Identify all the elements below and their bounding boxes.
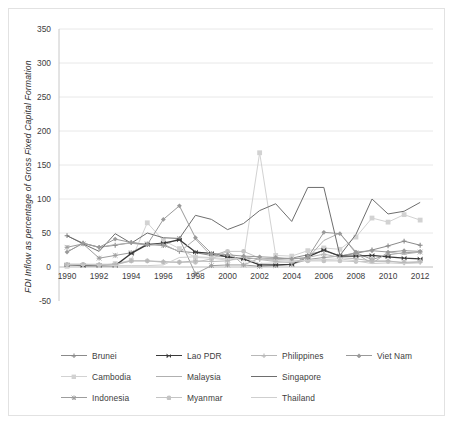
marker-circle xyxy=(241,249,246,254)
legend-item-indonesia[interactable]: Indonesia xyxy=(61,393,156,403)
x-axis-tick-2006: 2006 xyxy=(309,271,339,281)
marker-diamond xyxy=(113,237,118,242)
chart-plot-container: FDI Inflow as percentage of Gross Fixed … xyxy=(9,9,446,349)
marker-star xyxy=(113,253,118,258)
legend-key-icon xyxy=(61,372,87,382)
x-axis-tick-2000: 2000 xyxy=(213,271,243,281)
legend-row: CambodiaMalaysiaSingapore xyxy=(9,366,446,387)
legend-key-icon xyxy=(156,393,182,403)
marker-square xyxy=(72,374,76,378)
x-axis-tick-2010: 2010 xyxy=(373,271,403,281)
x-axis-tick-1990: 1990 xyxy=(52,271,82,281)
legend-marker-star-icon xyxy=(69,393,76,400)
legend-key-icon xyxy=(156,351,182,361)
legend-item-cambodia[interactable]: Cambodia xyxy=(61,372,156,382)
x-axis-tick-2002: 2002 xyxy=(245,271,275,281)
legend-key-icon xyxy=(251,372,277,382)
legend-line-swatch xyxy=(251,397,277,398)
marker-plus xyxy=(386,244,391,249)
marker-part xyxy=(305,248,310,253)
marker-part xyxy=(167,353,171,357)
legend-item-lao-pdr[interactable]: Lao PDR xyxy=(156,351,251,361)
marker-part xyxy=(370,216,375,221)
legend-item-label: Lao PDR xyxy=(187,351,222,361)
marker-square xyxy=(370,216,375,221)
legend-line-swatch xyxy=(251,376,277,377)
marker-plus xyxy=(262,353,266,357)
marker-square xyxy=(402,212,407,217)
x-axis-tick-2004: 2004 xyxy=(277,271,307,281)
legend-row: IndonesiaMyanmarThailand xyxy=(9,387,446,408)
x-axis-tick-1998: 1998 xyxy=(180,271,210,281)
marker-part xyxy=(65,250,70,255)
marker-star xyxy=(97,256,102,261)
x-axis-tick-1994: 1994 xyxy=(116,271,146,281)
marker-part xyxy=(402,212,407,217)
marker-diamond xyxy=(65,250,70,255)
marker-square xyxy=(257,150,262,155)
legend-item-label: Viet Nam xyxy=(377,351,412,361)
legend-marker-diamond-icon xyxy=(354,351,361,358)
line-chart-svg xyxy=(9,9,446,349)
marker-square xyxy=(386,220,391,225)
marker-diamond xyxy=(418,249,423,254)
marker-part xyxy=(418,218,423,223)
marker-plus xyxy=(418,243,423,248)
legend-line-swatch xyxy=(156,376,182,377)
legend-item-brunei[interactable]: Brunei xyxy=(61,351,156,361)
marker-square xyxy=(305,248,310,253)
y-axis-tick-350: 350 xyxy=(23,24,51,34)
legend-item-label: Philippines xyxy=(282,351,324,361)
marker-part xyxy=(386,220,391,225)
marker-part xyxy=(257,150,262,155)
legend-marker-plus-icon xyxy=(259,351,266,358)
y-axis-tick-300: 300 xyxy=(23,58,51,68)
marker-part xyxy=(129,240,134,245)
legend-item-myanmar[interactable]: Myanmar xyxy=(156,393,251,403)
legend-item-malaysia[interactable]: Malaysia xyxy=(156,372,251,382)
legend-marker-plus-icon xyxy=(69,351,76,358)
marker-bowtie xyxy=(167,353,171,357)
marker-star xyxy=(65,245,70,250)
legend-item-viet-nam[interactable]: Viet Nam xyxy=(346,351,441,361)
legend-key-icon xyxy=(346,351,372,361)
marker-square xyxy=(418,218,423,223)
legend-item-label: Malaysia xyxy=(187,372,221,382)
legend-item-label: Thailand xyxy=(282,393,315,403)
marker-part xyxy=(145,220,150,225)
legend-item-label: Singapore xyxy=(282,372,321,382)
marker-part xyxy=(113,237,118,242)
marker-plus xyxy=(72,353,76,357)
chart-figure: FDI Inflow as percentage of Gross Fixed … xyxy=(8,8,445,416)
legend-item-thailand[interactable]: Thailand xyxy=(251,393,346,403)
x-axis-tick-1992: 1992 xyxy=(84,271,114,281)
gridlines xyxy=(59,29,433,267)
legend-marker-circle-icon xyxy=(164,393,171,400)
marker-part xyxy=(370,248,375,253)
chart-legend: BruneiLao PDRPhilippinesViet NamCambodia… xyxy=(9,345,446,415)
marker-part xyxy=(357,353,361,357)
legend-item-label: Indonesia xyxy=(92,393,129,403)
marker-part xyxy=(418,249,423,254)
marker-circle xyxy=(167,395,171,399)
x-axis-tick-2012: 2012 xyxy=(405,271,435,281)
legend-item-label: Cambodia xyxy=(92,372,131,382)
legend-item-label: Myanmar xyxy=(187,393,223,403)
y-axis-tick--50: -50 xyxy=(23,296,51,306)
y-axis-tick-150: 150 xyxy=(23,160,51,170)
legend-item-philippines[interactable]: Philippines xyxy=(251,351,346,361)
marker-part xyxy=(167,395,171,399)
y-axis-tick-50: 50 xyxy=(23,228,51,238)
marker-part xyxy=(72,374,76,378)
marker-square xyxy=(145,220,150,225)
legend-marker-square-icon xyxy=(69,372,76,379)
marker-diamond xyxy=(321,230,326,235)
legend-key-icon xyxy=(61,351,87,361)
marker-star xyxy=(72,395,76,399)
legend-item-singapore[interactable]: Singapore xyxy=(251,372,346,382)
legend-marker-bowtie-icon xyxy=(164,351,171,358)
y-axis-tick-100: 100 xyxy=(23,194,51,204)
marker-plus xyxy=(402,239,407,244)
legend-key-icon xyxy=(251,393,277,403)
x-axis-tick-1996: 1996 xyxy=(148,271,178,281)
